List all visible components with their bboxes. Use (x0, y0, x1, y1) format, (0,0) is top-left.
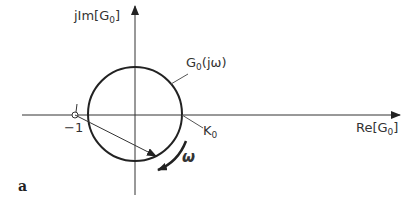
curve-label-leader (171, 74, 188, 84)
omega-label: ω (182, 148, 195, 166)
curve-label: G0(jω) (186, 55, 226, 72)
intercept-label: K0 (203, 123, 217, 140)
imaginary-axis-label: jIm[G0] (74, 8, 120, 25)
difference-vector (75, 115, 156, 156)
real-axis-label: Re[G0] (356, 120, 398, 137)
critical-point-label: −1 (64, 120, 83, 135)
figure-label: a (18, 178, 27, 194)
k0-leader (182, 115, 203, 128)
nyquist-diagram (0, 0, 419, 203)
critical-point-tick (76, 104, 77, 112)
